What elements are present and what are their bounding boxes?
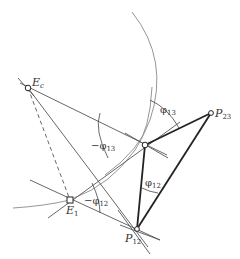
point-p13 — [142, 142, 148, 148]
diagram-canvas: Ec E1 P23 P12 φ13 −φ13 −φ12 φ12 — [0, 0, 240, 259]
label-phi12-neg: −φ12 — [84, 195, 108, 208]
label-phi12: φ12 — [145, 177, 161, 190]
point-p23 — [209, 111, 214, 116]
arc-inner — [74, 87, 152, 198]
point-p12 — [135, 227, 140, 232]
label-p23: P23 — [214, 107, 231, 121]
point-ec — [25, 85, 31, 91]
point-e1 — [67, 197, 73, 203]
label-e1: E1 — [65, 204, 79, 218]
link-p13-p12 — [137, 145, 145, 229]
line-ec-p12 — [28, 88, 148, 247]
arc-e1 — [13, 200, 70, 208]
label-phi13-neg: −φ13 — [91, 140, 115, 153]
label-phi13-top: φ13 — [160, 104, 176, 117]
label-ec: Ec — [31, 76, 44, 90]
